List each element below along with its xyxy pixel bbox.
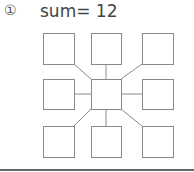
box-right[interactable] — [143, 80, 174, 110]
box-top-right[interactable] — [143, 34, 174, 65]
box-bottom[interactable] — [92, 127, 122, 158]
box-left[interactable] — [44, 80, 75, 110]
box-diagram — [0, 0, 194, 172]
connector-top-left — [74, 64, 91, 79]
box-top[interactable] — [92, 34, 122, 65]
box-top-left[interactable] — [44, 34, 75, 65]
connector-bottom-right — [121, 109, 142, 126]
box-bottom-right[interactable] — [143, 127, 174, 158]
box-bottom-left[interactable] — [44, 127, 75, 158]
center-box[interactable] — [92, 80, 122, 110]
connector-top-right — [121, 64, 142, 79]
connector-bottom-left — [74, 109, 91, 126]
divider-line — [0, 169, 194, 171]
